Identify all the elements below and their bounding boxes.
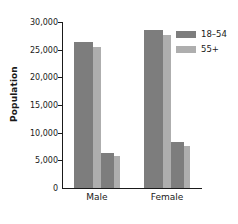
legend-swatch-icon — [176, 46, 196, 53]
x-axis-tick-label: Female — [151, 192, 184, 202]
bar — [114, 156, 120, 188]
x-axis-line — [62, 188, 202, 189]
legend-label: 55+ — [201, 44, 219, 54]
bar — [93, 47, 101, 188]
bar — [101, 153, 114, 188]
y-axis-tick-label: 10,000 — [20, 128, 58, 137]
chart-legend: 18–5455+ — [176, 28, 227, 58]
y-axis-tick-mark — [58, 105, 62, 106]
y-axis-tick-mark — [58, 160, 62, 161]
y-axis-tick-labels: 05,00010,00015,00020,00025,00030,000 — [20, 0, 58, 224]
bar — [144, 30, 163, 188]
y-axis-tick-label: 20,000 — [20, 73, 58, 82]
bar — [184, 146, 190, 188]
legend-swatch-icon — [176, 31, 196, 38]
bar — [74, 42, 93, 188]
y-axis-tick-label: 5,000 — [20, 156, 58, 165]
y-axis-tick-label: 25,000 — [20, 45, 58, 54]
y-axis-tick-label: 30,000 — [20, 18, 58, 27]
legend-label: 18–54 — [201, 29, 227, 39]
y-axis-tick-mark — [58, 22, 62, 23]
y-axis-line — [62, 22, 63, 188]
y-axis-tick-mark — [58, 50, 62, 51]
y-axis-tick-label: 15,000 — [20, 101, 58, 110]
population-bar-chart: Population 05,00010,00015,00020,00025,00… — [0, 0, 238, 224]
legend-item: 55+ — [176, 43, 227, 55]
bar — [171, 142, 184, 188]
legend-item: 18–54 — [176, 28, 227, 40]
x-axis-tick-label: Male — [86, 192, 107, 202]
y-axis-tick-label: 0 — [20, 184, 58, 193]
bar — [163, 35, 171, 188]
x-axis-tick-labels: MaleFemale — [62, 192, 202, 210]
y-axis-tick-mark — [58, 133, 62, 134]
y-axis-tick-mark — [58, 77, 62, 78]
y-axis-title-text: Population — [9, 66, 19, 122]
